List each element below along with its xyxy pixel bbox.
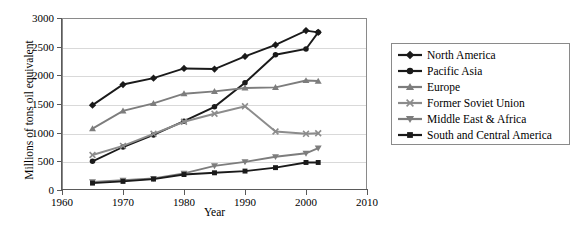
- series-0: [89, 27, 322, 109]
- data-point-diamond: [406, 51, 415, 60]
- legend-marker-triangle-down-icon: [397, 112, 423, 126]
- data-point-diamond: [272, 41, 279, 48]
- legend-marker-cross-x-icon: [397, 96, 423, 110]
- data-point-circle: [90, 159, 96, 165]
- chart-legend: North AmericaPacific AsiaEuropeFormer So…: [391, 43, 570, 145]
- series-line: [93, 31, 319, 106]
- data-point-circle: [315, 30, 321, 36]
- chart-screenshot: 050010001500200025003000 196019701980199…: [0, 0, 575, 232]
- data-point-circle: [407, 68, 413, 74]
- series-plot: [0, 0, 380, 232]
- data-point-diamond: [180, 65, 187, 72]
- series-line: [93, 148, 319, 182]
- legend-marker-triangle-up-icon: [397, 80, 423, 94]
- legend-marker-square-icon: [397, 128, 423, 142]
- data-point-diamond: [302, 27, 309, 34]
- legend-item-label: Former Soviet Union: [427, 97, 525, 109]
- data-point-circle: [303, 46, 309, 52]
- data-point-square: [273, 165, 278, 170]
- legend-item[interactable]: Pacific Asia: [397, 63, 565, 79]
- data-point-circle: [212, 104, 218, 110]
- legend-item[interactable]: North America: [397, 47, 565, 63]
- legend-item-label: Middle East & Africa: [427, 113, 526, 125]
- data-point-square: [182, 172, 187, 177]
- data-point-diamond: [150, 75, 157, 82]
- series-line: [93, 80, 319, 128]
- legend-item-label: North America: [427, 49, 496, 61]
- legend-item-label: Pacific Asia: [427, 65, 482, 77]
- data-point-circle: [273, 52, 279, 58]
- legend-item-label: South and Central America: [427, 129, 552, 141]
- legend-marker-circle-icon: [397, 64, 423, 78]
- legend-marker-diamond-icon: [397, 48, 423, 62]
- data-point-square: [90, 181, 95, 186]
- line-chart-figure: 050010001500200025003000 196019701980199…: [0, 0, 380, 232]
- series-line: [93, 32, 319, 161]
- data-point-square: [407, 132, 413, 138]
- data-point-square: [243, 169, 248, 174]
- data-point-diamond: [241, 53, 248, 60]
- series-5: [90, 160, 321, 186]
- legend-item[interactable]: South and Central America: [397, 127, 565, 143]
- legend-item-label: Europe: [427, 81, 460, 93]
- legend-item[interactable]: Middle East & Africa: [397, 111, 565, 127]
- series-line: [93, 106, 319, 155]
- data-point-square: [212, 170, 217, 175]
- legend-item[interactable]: Europe: [397, 79, 565, 95]
- data-point-diamond: [211, 65, 218, 72]
- data-point-square: [151, 177, 156, 182]
- data-point-square: [304, 160, 309, 165]
- data-point-square: [121, 179, 126, 184]
- data-point-square: [316, 160, 321, 165]
- legend-item[interactable]: Former Soviet Union: [397, 95, 565, 111]
